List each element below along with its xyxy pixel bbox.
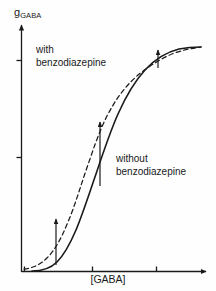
y-axis-label-subscript: GABA <box>20 11 41 20</box>
annotation-without-line1: without <box>116 153 186 166</box>
y-axis-label: gGABA <box>14 6 41 18</box>
gaba-dose-response-figure: gGABA [GABA] with benzodiazepine without… <box>0 0 216 291</box>
annotation-with-line2: benzodiazepine <box>36 57 106 70</box>
annotation-with-line1: with <box>36 44 106 57</box>
plot-area <box>0 0 216 291</box>
annotation-without-benzodiazepine: without benzodiazepine <box>116 153 186 178</box>
x-axis-label: [GABA] <box>0 274 216 286</box>
annotation-with-benzodiazepine: with benzodiazepine <box>36 44 106 69</box>
annotation-without-line2: benzodiazepine <box>116 166 186 179</box>
